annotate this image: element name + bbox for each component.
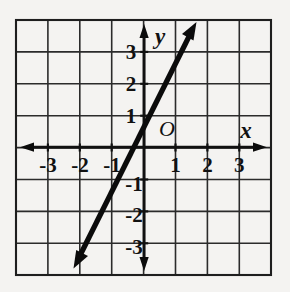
- x-tick-label-3: 3: [234, 153, 245, 177]
- y-axis-label: y: [152, 24, 166, 49]
- y-tick-label-1: 1: [126, 104, 137, 128]
- graph-figure: x y O -3 -2 -1 1 2 3 3 2 1 -1 -2 -3: [0, 0, 290, 292]
- y-tick-label-2: 2: [126, 72, 137, 96]
- coordinate-plane-svg: x y O -3 -2 -1 1 2 3 3 2 1 -1 -2 -3: [0, 0, 290, 292]
- x-tick-label-neg3: -3: [39, 153, 57, 177]
- x-tick-label-neg1: -1: [103, 153, 121, 177]
- x-tick-label-1: 1: [170, 153, 181, 177]
- x-tick-label-neg2: -2: [71, 153, 89, 177]
- y-tick-label-neg3: -3: [125, 235, 143, 259]
- y-tick-label-neg1: -1: [125, 172, 143, 196]
- x-tick-label-2: 2: [202, 153, 213, 177]
- y-tick-label-neg2: -2: [125, 203, 143, 227]
- origin-label: O: [159, 116, 175, 141]
- x-axis-label: x: [239, 118, 252, 143]
- y-tick-label-3: 3: [126, 40, 137, 64]
